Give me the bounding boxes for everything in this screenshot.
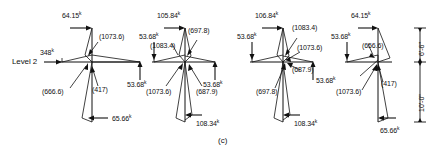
panel-1-bottom-force: 65.66k bbox=[112, 114, 131, 122]
panel-2-bottom-force: 108.34k bbox=[196, 119, 219, 127]
panel-1-moment-center: (417) bbox=[92, 86, 108, 93]
panel-4-moment-center: (417) bbox=[381, 80, 397, 87]
dimension-upper: 6'-6" bbox=[418, 42, 425, 56]
figure-container: Level 2 64.15k 348k 53.68k 65.66k (1073.… bbox=[0, 0, 448, 154]
panel-3-top-force: 106.84k bbox=[255, 11, 278, 19]
panel-4-moment-lower-left: (1073.6) bbox=[336, 88, 361, 95]
panel-2-moment-lower-left: (1073.6) bbox=[146, 88, 171, 95]
dimension-lower: 10'-0" bbox=[418, 94, 425, 112]
figure-caption: (c) bbox=[218, 136, 227, 145]
panel-2-moment-upper-right: (697.8) bbox=[188, 27, 209, 34]
panel-1-moment-upper: (1073.6) bbox=[99, 33, 124, 40]
panel-1-moment-left: (666.6) bbox=[42, 88, 63, 95]
panel-3-left-force: 53.68k bbox=[237, 32, 256, 40]
panel-2-moment-upper-left: (1083.4) bbox=[150, 42, 175, 49]
panel-4-bottom-force: 65.66k bbox=[380, 126, 399, 134]
panel-1-left-force: 348k bbox=[40, 48, 54, 56]
level-label: Level 2 bbox=[12, 58, 37, 66]
panel-4-top-force: 64.15k bbox=[351, 11, 370, 19]
panel-2-moment-lower-right: (687.9) bbox=[196, 88, 217, 95]
panel-2-left-force: 53.68k bbox=[139, 32, 158, 40]
panel-3-right-force: 53.68k bbox=[316, 76, 335, 84]
panel-3-bottom-force: 108.34k bbox=[294, 119, 317, 127]
panel-3-moment-lower-center: (697.8) bbox=[256, 88, 277, 95]
panel-3-moment-lower-right: (687.9) bbox=[292, 66, 313, 73]
panel-3-moment-upper-right: (1083.4) bbox=[292, 24, 317, 31]
panel-1-right-force: 53.68k bbox=[127, 80, 146, 88]
panel-2-top-force: 105.84k bbox=[157, 11, 180, 19]
panel-3-moment-mid-right: (1073.6) bbox=[297, 44, 322, 51]
panel-4-left-force: 53.68k bbox=[331, 32, 350, 40]
panel-1-top-force: 64.15k bbox=[62, 11, 81, 19]
panel-4-moment-upper: (656.6) bbox=[362, 42, 383, 49]
